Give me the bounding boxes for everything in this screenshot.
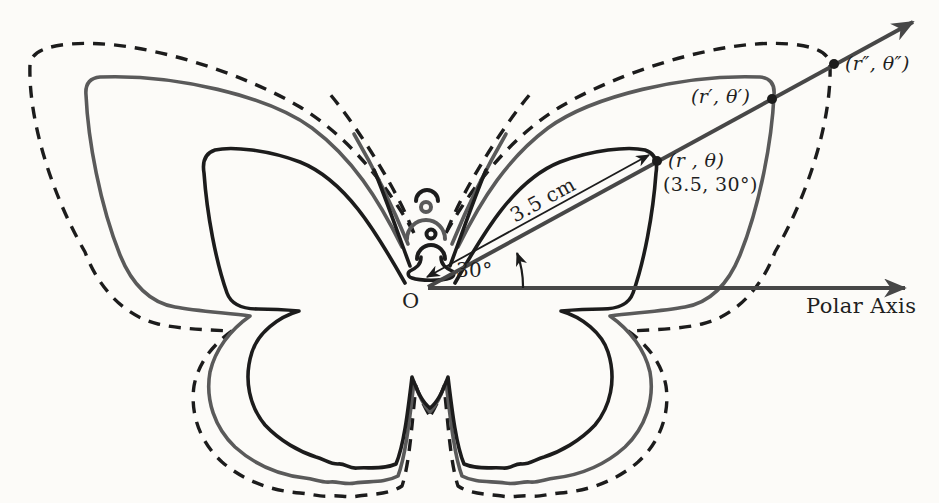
angle-label: 30° [456, 258, 493, 282]
point3-label: (r″, θ″) [845, 52, 910, 74]
butterfly-diagram-svg [0, 0, 939, 503]
point2-label: (r′, θ′) [691, 85, 750, 107]
point-dot-r-theta [652, 156, 662, 166]
point-dot-r-double-prime [829, 59, 839, 69]
butterfly-outer-dashed-outline [30, 43, 430, 496]
point1-label: (r , θ) [668, 149, 724, 171]
butterfly-inner-black-outline [203, 149, 430, 469]
polar-butterfly-figure: (r , θ) (3.5, 30°) (r′, θ′) (r″, θ″) Pol… [0, 0, 939, 503]
butterfly-head-arch-top [416, 190, 438, 201]
butterfly-gray-head-knob [421, 202, 431, 212]
origin-label: O [402, 289, 420, 313]
point1-coords-label: (3.5, 30°) [663, 173, 758, 195]
butterfly-black-head-knob [427, 230, 436, 239]
butterfly-middle-gray-outline [86, 77, 430, 484]
butterfly-left-half [30, 43, 430, 496]
angle-arc [517, 253, 523, 288]
polar-axis-label: Polar Axis [806, 294, 916, 318]
point-dot-r-prime [767, 94, 777, 104]
